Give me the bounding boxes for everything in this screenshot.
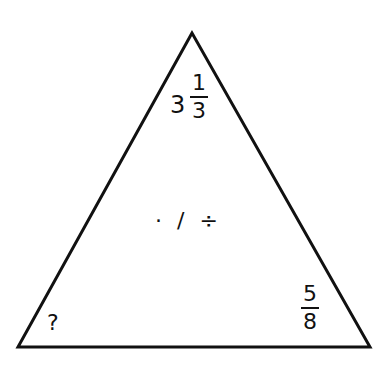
br-denominator: 8 [303, 311, 317, 333]
br-numerator: 5 [303, 283, 317, 305]
unknown-value: ? [47, 312, 59, 334]
bottom-right-fraction: 5 8 [301, 283, 319, 333]
top-fraction: 1 3 [190, 72, 208, 122]
top-whole: 3 [170, 93, 185, 117]
top-denominator: 3 [192, 100, 206, 122]
top-numerator: 1 [192, 72, 206, 94]
operator-symbols: · / ÷ [155, 210, 222, 232]
